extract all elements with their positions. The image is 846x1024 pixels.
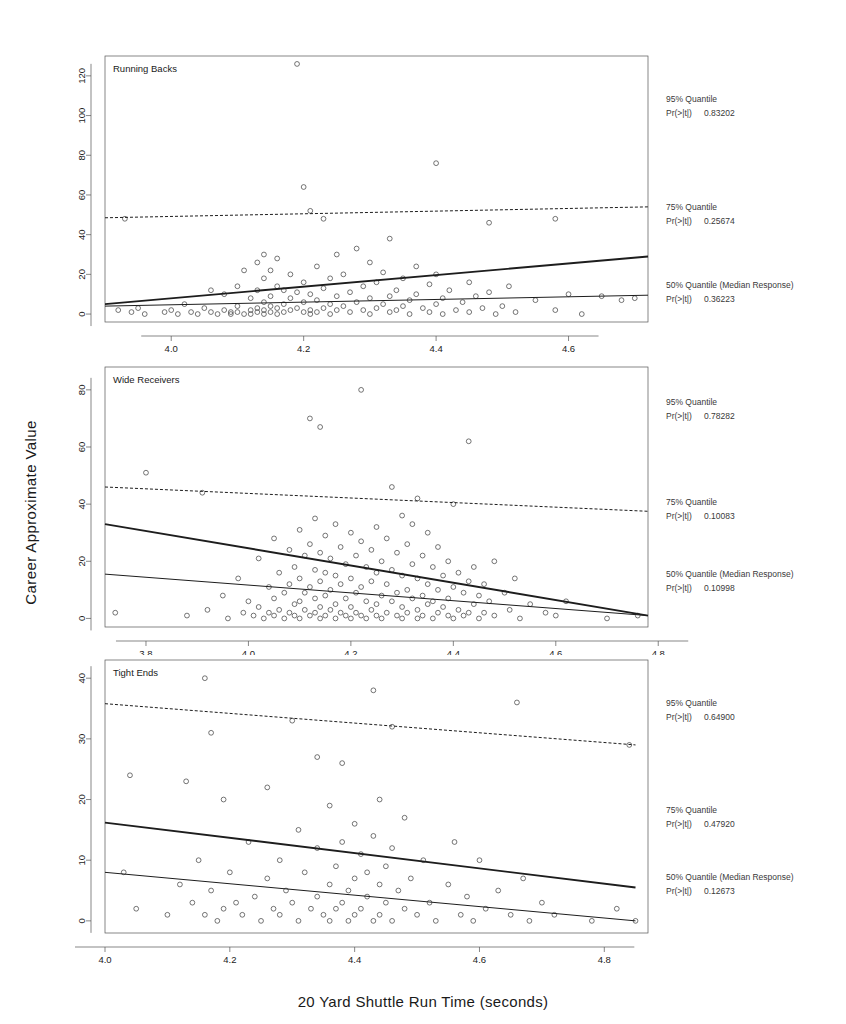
data-point bbox=[371, 834, 376, 839]
data-point bbox=[343, 613, 348, 618]
data-point bbox=[301, 280, 306, 285]
data-point bbox=[425, 602, 430, 607]
data-point bbox=[400, 616, 405, 621]
data-point bbox=[189, 310, 194, 315]
data-point bbox=[389, 485, 394, 490]
data-point bbox=[129, 310, 134, 315]
data-point bbox=[389, 599, 394, 604]
data-point bbox=[323, 533, 328, 538]
data-point bbox=[465, 894, 470, 899]
data-point bbox=[477, 616, 482, 621]
annotation-quantile-label: 75% Quantile bbox=[666, 805, 717, 815]
data-point bbox=[282, 616, 287, 621]
data-point bbox=[288, 308, 293, 313]
data-point bbox=[365, 870, 370, 875]
data-point bbox=[318, 579, 323, 584]
y-tick-label: 0 bbox=[76, 616, 87, 621]
data-point bbox=[338, 545, 343, 550]
data-point bbox=[359, 539, 364, 544]
data-point bbox=[202, 306, 207, 311]
data-point bbox=[425, 530, 430, 535]
data-point bbox=[277, 607, 282, 612]
data-point bbox=[427, 310, 432, 315]
data-point bbox=[346, 918, 351, 923]
data-point bbox=[400, 605, 405, 610]
data-point bbox=[277, 570, 282, 575]
data-point bbox=[467, 310, 472, 315]
data-point bbox=[142, 312, 147, 317]
data-point bbox=[287, 610, 292, 615]
data-point bbox=[354, 300, 359, 305]
y-tick-label: 120 bbox=[76, 68, 87, 84]
annotation-p-value: 0.36223 bbox=[704, 294, 735, 304]
data-point bbox=[430, 565, 435, 570]
data-point bbox=[327, 882, 332, 887]
plot-frame bbox=[105, 56, 648, 322]
data-point bbox=[420, 553, 425, 558]
annotation-p-value: 0.25674 bbox=[704, 216, 735, 226]
data-point bbox=[190, 900, 195, 905]
data-point bbox=[268, 304, 273, 309]
data-point bbox=[162, 310, 167, 315]
scatter-plot-running-backs: Running Backs4.04.24.44.6020406080100120… bbox=[0, 40, 846, 360]
data-point bbox=[290, 900, 295, 905]
data-point bbox=[195, 312, 200, 317]
data-point bbox=[295, 290, 300, 295]
annotation-quantile-label: 50% Quantile (Median Response) bbox=[666, 569, 794, 579]
data-point bbox=[387, 310, 392, 315]
data-point bbox=[482, 582, 487, 587]
data-point bbox=[452, 840, 457, 845]
data-point bbox=[361, 308, 366, 313]
x-tick-label: 4.4 bbox=[348, 954, 361, 963]
data-point bbox=[394, 308, 399, 313]
data-point bbox=[313, 610, 318, 615]
data-point bbox=[255, 260, 260, 265]
data-point bbox=[308, 416, 313, 421]
y-tick-label: 20 bbox=[76, 556, 87, 567]
data-point bbox=[348, 576, 353, 581]
data-point bbox=[288, 272, 293, 277]
data-point bbox=[184, 779, 189, 784]
data-point bbox=[338, 582, 343, 587]
data-point bbox=[354, 246, 359, 251]
data-point bbox=[261, 616, 266, 621]
annotation-quantile-label: 95% Quantile bbox=[666, 94, 717, 104]
y-tick-label: 10 bbox=[76, 855, 87, 866]
data-point bbox=[202, 676, 207, 681]
data-point bbox=[328, 607, 333, 612]
data-point bbox=[268, 268, 273, 273]
data-point bbox=[451, 616, 456, 621]
data-point bbox=[480, 306, 485, 311]
data-point bbox=[241, 610, 246, 615]
data-point bbox=[364, 599, 369, 604]
quantile-fit-line bbox=[105, 207, 648, 218]
data-point bbox=[265, 785, 270, 790]
data-point bbox=[234, 900, 239, 905]
quantile-fit-line bbox=[105, 487, 648, 511]
y-tick-label: 30 bbox=[76, 734, 87, 745]
x-tick-label: 4.2 bbox=[223, 954, 236, 963]
data-point bbox=[136, 306, 141, 311]
data-point bbox=[334, 864, 339, 869]
scatter-plot-wide-receivers: Wide Receivers3.84.04.24.44.64.802040608… bbox=[0, 355, 846, 655]
data-point bbox=[227, 870, 232, 875]
data-point bbox=[446, 882, 451, 887]
annotation-p-value: 0.12673 bbox=[704, 886, 735, 896]
data-point bbox=[508, 912, 513, 917]
data-point bbox=[408, 876, 413, 881]
data-point bbox=[321, 286, 326, 291]
annotation-stat-label: Pr(>|t|) bbox=[666, 886, 692, 896]
data-point bbox=[493, 312, 498, 317]
data-points bbox=[113, 387, 640, 620]
y-tick-label: 40 bbox=[76, 499, 87, 510]
data-point bbox=[268, 310, 273, 315]
data-point bbox=[308, 613, 313, 618]
data-point bbox=[222, 308, 227, 313]
data-point bbox=[405, 610, 410, 615]
data-point bbox=[414, 292, 419, 297]
panel-tight-ends: Tight Ends4.04.24.44.64.801020304095% Qu… bbox=[0, 648, 846, 963]
data-point bbox=[262, 300, 267, 305]
x-tick-label: 4.0 bbox=[98, 954, 111, 963]
data-point bbox=[178, 882, 183, 887]
data-point bbox=[185, 613, 190, 618]
